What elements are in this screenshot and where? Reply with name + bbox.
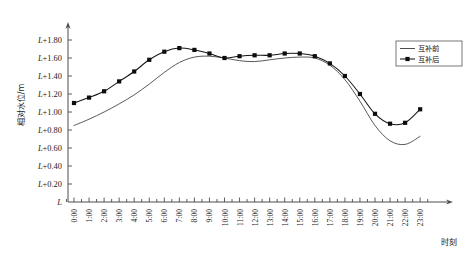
x-axis-title-text: 时刻 xyxy=(441,237,457,247)
y-tick-label: L+1.60 xyxy=(37,54,62,63)
x-tick-label: 16:00 xyxy=(311,209,320,227)
x-tick-label: 11:00 xyxy=(236,209,245,226)
x-tick-label: 21:00 xyxy=(386,209,395,227)
x-tick-label: 8:00 xyxy=(190,209,199,223)
y-tick-label: L+1.80 xyxy=(37,36,62,45)
x-tick-label: 9:00 xyxy=(205,209,214,223)
x-tick-label: 0:00 xyxy=(70,209,79,223)
x-tick-label: 20:00 xyxy=(371,209,380,227)
x-tick-label: 1:00 xyxy=(85,209,94,223)
x-tick-label: 7:00 xyxy=(175,209,184,223)
data-point-marker xyxy=(328,61,332,65)
data-point-marker xyxy=(147,58,151,62)
data-point-marker xyxy=(313,54,317,58)
legend-label[interactable]: 互补后 xyxy=(418,55,440,64)
legend-label[interactable]: 互补前 xyxy=(418,44,439,53)
y-tick-label: L+1.00 xyxy=(37,108,62,117)
axes-group xyxy=(65,22,453,205)
data-point-marker xyxy=(117,79,121,83)
chart-canvas: 相对水位/m 时刻 LL+0.20L+0.40L+0.60L+0.80L+1.0… xyxy=(0,0,474,261)
data-point-marker xyxy=(72,101,76,105)
y-tick-labels: LL+0.20L+0.40L+0.60L+0.80L+1.00L+1.20L+1… xyxy=(37,36,72,207)
x-tick-label: 14:00 xyxy=(281,209,290,227)
data-point-marker xyxy=(343,74,347,78)
x-tick-label: 5:00 xyxy=(145,209,154,223)
y-tick-label: L+0.20 xyxy=(37,180,62,189)
x-tick-label: 19:00 xyxy=(356,209,365,227)
data-point-marker xyxy=(388,122,392,126)
series-line xyxy=(74,48,420,125)
y-tick-label: L xyxy=(56,198,62,207)
data-point-marker xyxy=(222,56,226,60)
y-tick-label: L+0.80 xyxy=(37,126,62,135)
x-tick-label: 2:00 xyxy=(100,209,109,223)
chart-legend[interactable]: 互补前互补后 xyxy=(396,41,462,66)
x-tick-label: 12:00 xyxy=(251,209,260,227)
data-point-marker xyxy=(373,112,377,116)
y-tick-label: L+0.60 xyxy=(37,144,62,153)
y-axis-title: 相对水位/m xyxy=(16,84,26,127)
x-tick-label: 6:00 xyxy=(160,209,169,223)
data-point-marker xyxy=(162,50,166,54)
data-point-marker xyxy=(192,48,196,52)
series-line xyxy=(74,56,420,144)
legend-marker-swatch xyxy=(405,57,409,61)
data-point-marker xyxy=(268,53,272,57)
water-level-chart-figure: 相对水位/m 时刻 LL+0.20L+0.40L+0.60L+0.80L+1.0… xyxy=(0,0,474,261)
data-point-marker xyxy=(253,53,257,57)
data-point-marker xyxy=(283,51,287,55)
data-point-marker xyxy=(237,54,241,58)
data-point-marker xyxy=(403,121,407,125)
y-axis-title-text: 相对水位/m xyxy=(16,84,26,127)
data-point-marker xyxy=(102,89,106,93)
x-tick-label: 3:00 xyxy=(115,209,124,223)
y-tick-label: L+1.20 xyxy=(37,90,62,99)
data-point-marker xyxy=(132,69,136,73)
x-tick-label: 23:00 xyxy=(416,209,425,227)
x-tick-label: 17:00 xyxy=(326,209,335,227)
x-tick-label: 15:00 xyxy=(296,209,305,227)
x-tick-label: 13:00 xyxy=(266,209,275,227)
plot-area xyxy=(72,46,422,145)
data-point-marker xyxy=(207,51,211,55)
data-point-marker xyxy=(358,92,362,96)
data-point-marker xyxy=(298,51,302,55)
x-tick-label: 10:00 xyxy=(221,209,230,227)
series-before xyxy=(74,56,420,144)
data-point-marker xyxy=(177,46,181,50)
x-tick-label: 22:00 xyxy=(401,209,410,227)
y-tick-label: L+1.40 xyxy=(37,72,62,81)
data-point-marker xyxy=(87,96,91,100)
series-after xyxy=(72,46,422,126)
x-tick-label: 4:00 xyxy=(130,209,139,223)
data-point-marker xyxy=(418,107,422,111)
y-tick-label: L+0.40 xyxy=(37,162,62,171)
x-tick-label: 18:00 xyxy=(341,209,350,227)
